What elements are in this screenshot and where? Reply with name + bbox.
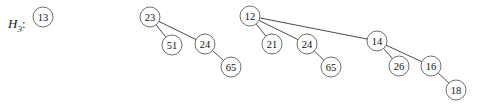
node-key-label: 14 (372, 36, 383, 47)
tree-node[interactable]: 14 (367, 31, 387, 51)
tree-node[interactable]: 12 (240, 6, 260, 26)
tree-node[interactable]: 51 (162, 35, 182, 55)
node-key-label: 65 (226, 62, 237, 73)
node-key-label: 26 (394, 61, 405, 72)
node-key-label: 51 (167, 40, 178, 51)
node-key-label: 18 (451, 85, 462, 96)
tree-edge (156, 25, 166, 37)
node-layer: 13235124651221246514261618 (33, 6, 466, 100)
node-key-label: 12 (245, 11, 256, 22)
node-key-label: 24 (200, 39, 211, 50)
tree-node[interactable]: 65 (321, 57, 341, 77)
tree-node[interactable]: 16 (421, 56, 441, 76)
tree-node[interactable]: 24 (297, 34, 317, 54)
binomial-tree-1: 23512465 (140, 7, 241, 77)
tree-node[interactable]: 24 (195, 34, 215, 54)
binomial-tree-0: 13 (33, 7, 53, 27)
binomial-heap-figure: H3: 13235124651221246514261618 (0, 0, 481, 105)
binomial-tree-2: 1221246514261618 (240, 6, 466, 100)
tree-node[interactable]: 13 (33, 7, 53, 27)
tree-node[interactable]: 23 (140, 7, 160, 27)
node-key-label: 16 (426, 61, 437, 72)
tree-node[interactable]: 65 (221, 57, 241, 77)
tree-edge (256, 24, 266, 36)
tree-node[interactable]: 18 (446, 80, 466, 100)
node-key-label: 65 (326, 62, 337, 73)
node-key-label: 13 (38, 12, 49, 23)
tree-node[interactable]: 26 (389, 56, 409, 76)
tree-edge (438, 73, 449, 83)
node-key-label: 23 (145, 12, 156, 23)
binomial-heap-graph: 13235124651221246514261618 (0, 0, 481, 105)
tree-edge (384, 49, 393, 59)
tree-edge (314, 51, 324, 60)
tree-edge (212, 51, 223, 61)
tree-node[interactable]: 21 (262, 34, 282, 54)
node-key-label: 21 (267, 39, 278, 50)
node-key-label: 24 (302, 39, 313, 50)
